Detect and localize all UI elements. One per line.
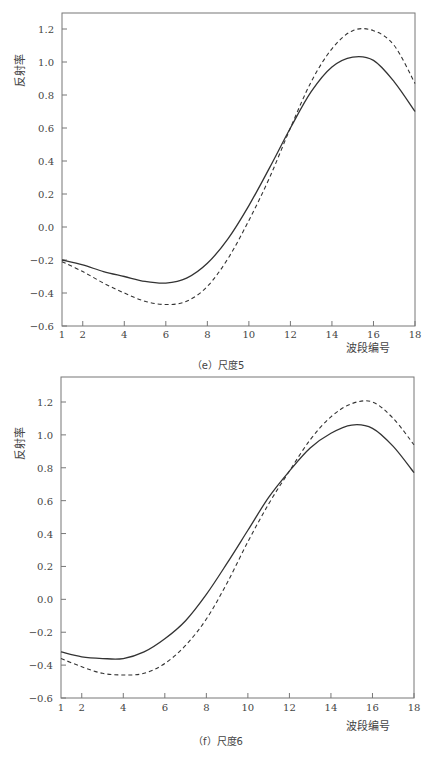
chart-scale-6: 1.21.00.80.60.40.20.0−0.2−0.4−0.61246810…	[0, 372, 436, 759]
x-tick-label: 8	[204, 329, 210, 340]
series-dashed-line	[62, 29, 415, 305]
chart-svg: 1.21.00.80.60.40.20.0−0.2−0.4−0.61246810…	[0, 372, 436, 759]
y-tick-label: −0.6	[30, 321, 54, 332]
chart-svg: 1.21.00.80.60.40.20.0−0.2−0.4−0.61246810…	[0, 0, 436, 372]
x-tick-label: 6	[163, 329, 169, 340]
y-tick-label: 0.4	[38, 156, 54, 167]
x-tick-label: 18	[408, 702, 421, 713]
y-tick-label: 0.8	[38, 90, 54, 101]
x-tick-label: 4	[121, 329, 127, 340]
x-tick-label: 6	[162, 702, 168, 713]
y-tick-label: 0.0	[37, 594, 53, 605]
y-tick-label: 0.6	[37, 496, 53, 507]
y-tick-label: −0.4	[29, 660, 53, 671]
x-tick-label: 8	[203, 702, 209, 713]
x-tick-label: 14	[325, 702, 338, 713]
y-tick-label: 0.2	[38, 189, 54, 200]
y-tick-label: −0.2	[30, 255, 54, 266]
y-tick-label: −0.2	[29, 627, 53, 638]
x-tick-label: 1	[58, 702, 64, 713]
y-tick-label: 1.2	[38, 24, 54, 35]
y-tick-label: −0.4	[30, 288, 54, 299]
y-tick-label: 0.2	[37, 561, 53, 572]
x-tick-label: 1	[59, 329, 65, 340]
x-tick-label: 12	[283, 702, 296, 713]
x-tick-label: 2	[79, 702, 85, 713]
y-tick-label: 0.6	[38, 123, 54, 134]
x-tick-label: 2	[80, 329, 86, 340]
series-dashed-line	[61, 401, 414, 675]
y-axis-label: 反射率	[13, 54, 27, 87]
x-tick-label: 18	[409, 329, 422, 340]
y-tick-label: 0.0	[38, 222, 54, 233]
y-axis-label: 反射率	[13, 427, 27, 460]
x-tick-label: 12	[284, 329, 297, 340]
x-axis-label: 波段编号	[346, 341, 390, 355]
x-tick-label: 14	[326, 329, 339, 340]
series-solid-line	[61, 425, 414, 659]
x-tick-label: 16	[366, 702, 379, 713]
y-tick-label: 1.0	[38, 57, 54, 68]
chart-caption-scale-5: （e）尺度5	[0, 357, 436, 372]
series-solid-line	[62, 56, 415, 283]
x-tick-label: 16	[367, 329, 380, 340]
chart-caption-scale-6: （f）尺度6	[0, 733, 436, 748]
y-tick-label: 1.0	[37, 430, 53, 441]
x-tick-label: 10	[242, 702, 255, 713]
x-tick-label: 10	[243, 329, 256, 340]
y-tick-label: 0.8	[37, 463, 53, 474]
plot-frame	[62, 13, 415, 326]
y-tick-label: 0.4	[37, 529, 53, 540]
chart-scale-5: 1.21.00.80.60.40.20.0−0.2−0.4−0.61246810…	[0, 0, 436, 372]
y-tick-label: 1.2	[37, 397, 53, 408]
x-tick-label: 4	[120, 702, 126, 713]
x-axis-label: 波段编号	[346, 719, 390, 733]
y-tick-label: −0.6	[29, 693, 53, 704]
